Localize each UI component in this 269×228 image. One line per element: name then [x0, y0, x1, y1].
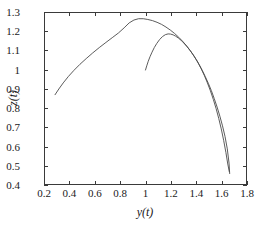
y-tick-mark-right — [243, 89, 247, 90]
y-tick-mark-right — [243, 185, 247, 186]
x-tick-mark-top — [69, 12, 70, 16]
x-axis-label: y(t) — [137, 206, 154, 218]
y-tick-mark — [44, 147, 48, 148]
y-tick-label: 0.6 — [6, 141, 20, 152]
y-tick-mark-right — [243, 147, 247, 148]
y-tick-mark — [44, 89, 48, 90]
x-tick-mark-top — [146, 12, 147, 16]
y-tick-mark — [44, 50, 48, 51]
y-tick-mark — [44, 166, 48, 167]
x-tick-label: 0.8 — [113, 188, 127, 199]
y-tick-mark — [44, 31, 48, 32]
y-tick-label: 0.5 — [6, 160, 20, 171]
x-tick-mark — [120, 181, 121, 185]
trajectory-inner-path — [146, 34, 230, 174]
x-tick-label: 1 — [143, 188, 149, 199]
x-tick-mark — [146, 181, 147, 185]
x-tick-mark-top — [247, 12, 248, 16]
x-tick-mark-top — [196, 12, 197, 16]
y-tick-mark — [44, 108, 48, 109]
x-tick-mark — [222, 181, 223, 185]
x-tick-label: 1.2 — [164, 188, 178, 199]
x-tick-label: 1.6 — [215, 188, 229, 199]
y-tick-mark — [44, 127, 48, 128]
y-tick-mark-right — [243, 108, 247, 109]
plot-area — [44, 12, 247, 185]
x-tick-label: 0.4 — [63, 188, 77, 199]
y-tick-label: 0.4 — [6, 180, 20, 191]
y-tick-mark — [44, 185, 48, 186]
x-tick-mark — [247, 181, 248, 185]
x-tick-label: 0.2 — [37, 188, 51, 199]
x-tick-label: 1.8 — [240, 188, 254, 199]
y-tick-mark-right — [243, 127, 247, 128]
y-tick-mark-right — [243, 166, 247, 167]
x-tick-mark-top — [120, 12, 121, 16]
x-tick-mark-top — [222, 12, 223, 16]
y-tick-mark-right — [243, 31, 247, 32]
x-tick-mark — [196, 181, 197, 185]
y-tick-label: 1.3 — [6, 7, 20, 18]
x-tick-mark — [95, 181, 96, 185]
y-tick-mark-right — [243, 70, 247, 71]
y-tick-label: 1.2 — [6, 26, 20, 37]
x-tick-mark-top — [95, 12, 96, 16]
curves-svg — [45, 13, 246, 184]
x-tick-mark — [69, 181, 70, 185]
y-tick-label: 1.1 — [6, 45, 20, 56]
x-tick-mark-top — [171, 12, 172, 16]
y-tick-label: 0.7 — [6, 122, 20, 133]
y-tick-mark-right — [243, 50, 247, 51]
x-tick-label: 0.6 — [88, 188, 102, 199]
figure-container: 0.20.40.60.811.21.41.61.80.40.50.60.70.8… — [0, 0, 269, 228]
x-tick-mark — [171, 181, 172, 185]
y-tick-mark — [44, 12, 48, 13]
x-tick-label: 1.4 — [189, 188, 203, 199]
y-tick-label: 1 — [15, 64, 21, 75]
y-tick-mark-right — [243, 12, 247, 13]
trajectory-outer-path — [55, 19, 229, 172]
y-tick-mark — [44, 70, 48, 71]
y-axis-label: z(t) — [7, 90, 19, 106]
